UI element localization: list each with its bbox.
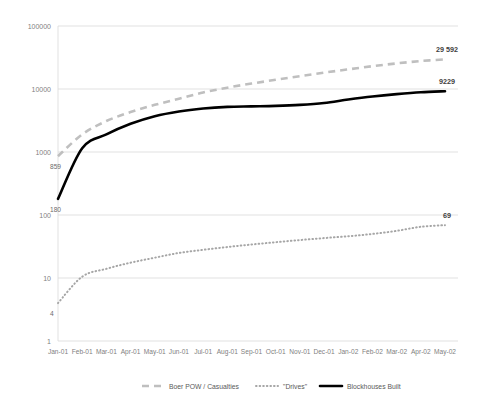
series-end-label: 9229 xyxy=(439,77,455,86)
x-tick-label: Mar-01 xyxy=(96,348,117,355)
x-tick-label: Nov-01 xyxy=(289,348,311,355)
x-tick-label: May-02 xyxy=(434,348,456,356)
chart-container: 110100100010000100000 Jan-01Feb-01Mar-01… xyxy=(0,0,479,402)
legend-item-label[interactable]: Blockhouses Built xyxy=(347,383,401,390)
x-tick-label: Jan-02 xyxy=(338,348,358,355)
gridlines-group xyxy=(58,26,458,341)
series-group xyxy=(58,59,445,303)
y-tick-label: 10000 xyxy=(32,86,52,93)
x-tick-label: Aug-01 xyxy=(217,348,239,356)
series-line xyxy=(58,91,445,199)
y-tick-label: 10 xyxy=(43,275,51,282)
series-line xyxy=(58,225,445,303)
data-labels-group: 29 5928596949229180 xyxy=(50,45,458,317)
x-tick-label: Jul-01 xyxy=(194,348,212,355)
legend-item-label[interactable]: "Drives" xyxy=(283,383,308,390)
legend-item-label[interactable]: Boer POW / Casualties xyxy=(169,383,239,390)
series-line xyxy=(58,59,445,156)
x-axis-labels-group: Jan-01Feb-01Mar-01Apr-01May-01Jun-01Jul-… xyxy=(48,348,456,356)
x-tick-label: Mar-02 xyxy=(386,348,407,355)
x-tick-label: Feb-02 xyxy=(362,348,383,355)
x-tick-label: Feb-01 xyxy=(72,348,93,355)
x-tick-label: May-01 xyxy=(144,348,166,356)
x-tick-label: Jan-01 xyxy=(48,348,68,355)
series-start-label: 4 xyxy=(50,310,54,317)
y-axis-labels-group: 110100100010000100000 xyxy=(28,23,51,345)
x-tick-label: Sep-01 xyxy=(241,348,263,356)
y-tick-label: 1000 xyxy=(35,149,51,156)
series-start-label: 180 xyxy=(50,206,61,213)
legend-group: Boer POW / Casualties"Drives"Blockhouses… xyxy=(142,383,401,390)
x-tick-label: Dec-01 xyxy=(313,348,335,355)
series-end-label: 29 592 xyxy=(436,45,458,54)
series-end-label: 69 xyxy=(443,211,451,220)
y-tick-label: 1 xyxy=(47,338,51,345)
y-tick-label: 100000 xyxy=(28,23,51,30)
x-tick-label: Jun-01 xyxy=(169,348,189,355)
x-tick-label: Apr-02 xyxy=(411,348,431,356)
x-tick-label: Oct-01 xyxy=(266,348,286,355)
x-tick-label: Apr-01 xyxy=(121,348,141,356)
series-start-label: 859 xyxy=(50,163,61,170)
log-line-chart: 110100100010000100000 Jan-01Feb-01Mar-01… xyxy=(0,0,479,402)
